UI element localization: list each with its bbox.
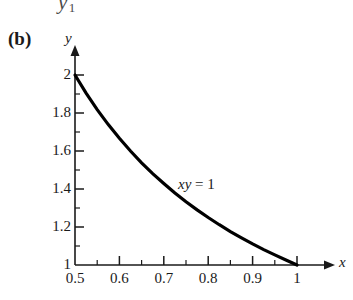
y-tick-label: 1.6 bbox=[52, 142, 71, 159]
ticks-group bbox=[75, 75, 297, 265]
x-axis-arrow-icon bbox=[324, 261, 335, 270]
x-tick-label: 0.6 bbox=[110, 270, 129, 287]
clipped-symbol: y bbox=[58, 0, 68, 14]
x-tick-label: 0.8 bbox=[199, 270, 218, 287]
y-axis-arrow-icon bbox=[71, 45, 80, 56]
y-axis-label: y bbox=[65, 30, 72, 47]
x-tick-label: 1 bbox=[293, 270, 301, 287]
figure-panel-b: y1 (b) y x xy = 1 11.21.41.61.82 0.50.60… bbox=[0, 0, 353, 300]
x-tick-label: 0.7 bbox=[154, 270, 173, 287]
clipped-figure-artifact: y1 bbox=[58, 0, 76, 16]
y-tick-label: 1.4 bbox=[52, 180, 71, 197]
clipped-subscript: 1 bbox=[68, 0, 76, 15]
y-tick-label: 1.8 bbox=[52, 104, 71, 121]
hyperbola-curve bbox=[75, 75, 297, 265]
curve-equation-annotation: xy = 1 bbox=[178, 176, 215, 193]
panel-label: (b) bbox=[8, 28, 31, 50]
equation-value: = 1 bbox=[191, 176, 214, 192]
x-tick-label: 0.9 bbox=[243, 270, 262, 287]
equation-variables: xy bbox=[178, 176, 191, 192]
y-tick-label: 1.2 bbox=[52, 218, 71, 235]
x-tick-label: 0.5 bbox=[66, 270, 85, 287]
axes-group bbox=[71, 45, 336, 270]
x-axis-label: x bbox=[339, 254, 346, 271]
y-tick-label: 2 bbox=[64, 66, 72, 83]
